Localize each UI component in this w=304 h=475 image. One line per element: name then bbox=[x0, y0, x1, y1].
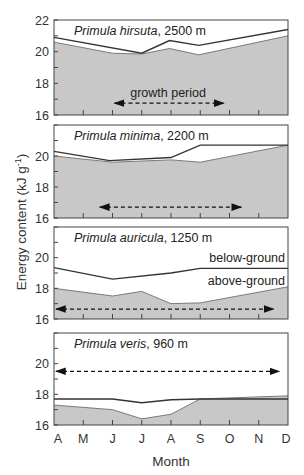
elevation: , 2200 m bbox=[160, 129, 209, 143]
elevation: , 2500 m bbox=[157, 24, 206, 38]
y-tick-label: 16 bbox=[35, 109, 49, 123]
above-ground-label: above-ground bbox=[208, 274, 285, 288]
panel-title: Primula auricula, 1250 m bbox=[74, 231, 212, 245]
growth-period-label: growth period bbox=[130, 86, 206, 100]
y-tick-label: 16 bbox=[35, 313, 49, 327]
x-axis: AMJJASOND bbox=[54, 432, 291, 446]
y-tick-label: 16 bbox=[35, 419, 49, 433]
month-label: S bbox=[196, 432, 204, 446]
y-tick-label: 18 bbox=[35, 181, 49, 195]
x-axis-title: Month bbox=[152, 454, 190, 469]
species-name: Primula auricula bbox=[74, 231, 164, 245]
month-label: J bbox=[139, 432, 145, 446]
y-tick-label: 18 bbox=[35, 77, 49, 91]
elevation: , 960 m bbox=[146, 337, 188, 351]
panel-2: 161820Primula minima, 2200 m bbox=[35, 125, 288, 226]
elevation: , 1250 m bbox=[164, 231, 213, 245]
panel-3: 161820Primula auricula, 1250 mbelow-grou… bbox=[35, 227, 288, 327]
y-tick-label: 20 bbox=[35, 251, 49, 265]
y-tick-label: 20 bbox=[35, 357, 49, 371]
panel-title: Primula veris, 960 m bbox=[74, 337, 188, 351]
y-tick-label: 18 bbox=[35, 282, 49, 296]
energy-content-chart: 16182022Primula hirsuta, 2500 mgrowth pe… bbox=[0, 0, 304, 475]
month-label: A bbox=[54, 432, 63, 446]
panel-4: 161820Primula veris, 960 m bbox=[35, 333, 288, 433]
month-label: D bbox=[281, 432, 290, 446]
month-label: A bbox=[167, 432, 176, 446]
y-tick-label: 20 bbox=[35, 150, 49, 164]
y-tick-label: 16 bbox=[35, 212, 49, 226]
y-tick-label: 18 bbox=[35, 388, 49, 402]
month-label: M bbox=[78, 432, 88, 446]
below-ground-label: below-ground bbox=[209, 251, 285, 265]
species-name: Primula veris bbox=[74, 337, 146, 351]
species-name: Primula minima bbox=[74, 129, 160, 143]
panel-1: 16182022Primula hirsuta, 2500 mgrowth pe… bbox=[35, 14, 288, 123]
month-label: J bbox=[109, 432, 115, 446]
y-tick-label: 20 bbox=[35, 45, 49, 59]
panel-title: Primula minima, 2200 m bbox=[74, 129, 209, 143]
month-label: O bbox=[225, 432, 235, 446]
panels-group: 16182022Primula hirsuta, 2500 mgrowth pe… bbox=[35, 14, 288, 433]
y-axis-title: Energy content (kJ g-1) bbox=[13, 154, 29, 290]
month-label: N bbox=[254, 432, 263, 446]
y-tick-label: 22 bbox=[35, 14, 49, 28]
species-name: Primula hirsuta bbox=[74, 24, 157, 38]
panel-title: Primula hirsuta, 2500 m bbox=[74, 24, 206, 38]
